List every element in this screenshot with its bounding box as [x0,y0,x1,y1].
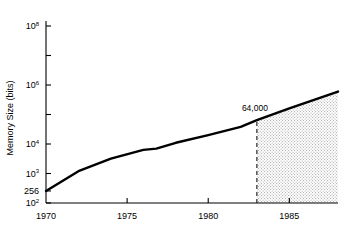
x-tick-label: 1970 [36,211,56,221]
y-tick-label: 103 [26,168,40,179]
annotation-64000: 64,000 [242,103,268,113]
y-axis-ticks [46,26,51,203]
special-y-tick-256: 256 [24,186,51,196]
x-axis-tick-labels: 1970197519801985 [36,211,299,221]
y-axis-title: Memory Size (bits) [5,80,15,155]
y-tick-label: 106 [26,80,40,91]
x-tick-label: 1985 [279,211,299,221]
y-tick-label: 104 [26,139,40,150]
memory-size-chart: 102103104106108 1970197519801985 256 64,… [0,0,345,236]
projection-shaded-region [257,92,338,203]
y-axis-tick-labels: 102103104106108 [26,21,40,209]
x-tick-label: 1975 [117,211,137,221]
chart-canvas: 102103104106108 1970197519801985 256 64,… [0,0,345,236]
x-tick-label: 1980 [198,211,218,221]
y-tick-label: 102 [26,198,40,209]
y-tick-label-256: 256 [24,186,39,196]
y-tick-label: 108 [26,21,40,32]
